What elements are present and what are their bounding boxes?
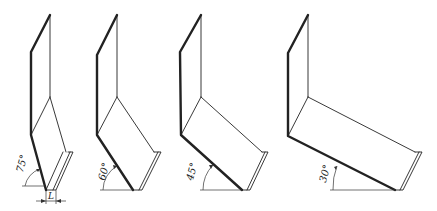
angle-label-60: 60° — [96, 161, 111, 181]
dimension-label-L: L — [47, 191, 54, 201]
diagram-canvas: 75° L 60° 45° — [0, 0, 437, 211]
angle-label-45: 45° — [184, 161, 199, 182]
panel-60: 60° — [96, 15, 161, 190]
panel-30: 30° — [288, 15, 422, 190]
panel-45: 45° — [180, 15, 268, 190]
panel-75: 75° L — [14, 15, 73, 204]
angle-label-75: 75° — [14, 153, 29, 173]
angle-label-30: 30° — [317, 163, 332, 183]
